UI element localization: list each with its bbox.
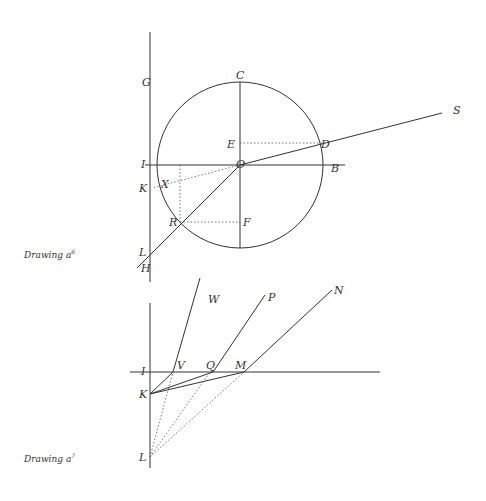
label-B: B bbox=[330, 162, 339, 175]
label-C: C bbox=[236, 69, 245, 82]
label-M: M bbox=[234, 359, 247, 372]
label-D: D bbox=[320, 138, 330, 151]
ray-OS bbox=[240, 113, 442, 165]
label-P: P bbox=[267, 291, 276, 304]
drawing-a7: W P N I V Q M K L Drawing a7 bbox=[23, 278, 380, 468]
dotted-LM bbox=[150, 372, 244, 457]
label-K: K bbox=[138, 182, 148, 195]
label-L: L bbox=[138, 246, 146, 259]
label-N: N bbox=[333, 284, 344, 297]
label-F: F bbox=[242, 216, 251, 229]
line-KQ bbox=[150, 372, 213, 394]
label-H: H bbox=[140, 262, 151, 275]
label-I: I bbox=[140, 158, 146, 171]
label-V: V bbox=[177, 359, 186, 372]
label-K: K bbox=[138, 388, 148, 401]
caption-drawing-a6: Drawing a6 bbox=[23, 248, 75, 260]
line-KV bbox=[150, 372, 173, 394]
line-OL bbox=[137, 165, 240, 268]
label-S: S bbox=[453, 104, 461, 117]
caption-drawing-a7: Drawing a7 bbox=[23, 452, 75, 464]
label-X: X bbox=[160, 178, 170, 191]
label-R: R bbox=[168, 216, 177, 229]
label-O: O bbox=[236, 158, 245, 171]
label-G: G bbox=[142, 76, 151, 89]
diagram-canvas: G C S E D I O B K X R F L H Drawing a6 W… bbox=[0, 0, 486, 501]
label-I: I bbox=[140, 365, 146, 378]
label-W: W bbox=[208, 293, 221, 306]
dotted-LV bbox=[150, 372, 173, 457]
ray-MN bbox=[244, 290, 332, 372]
label-E: E bbox=[226, 138, 235, 151]
drawing-a6: G C S E D I O B K X R F L H Drawing a6 bbox=[23, 32, 461, 282]
ray-VW bbox=[173, 278, 200, 372]
label-L: L bbox=[138, 451, 146, 464]
label-Q: Q bbox=[206, 359, 215, 372]
